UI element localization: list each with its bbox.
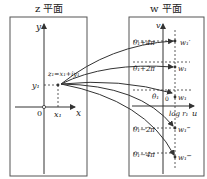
w-plane-title: w 平面 bbox=[150, 3, 182, 14]
z-y1-label: y₁ bbox=[31, 81, 40, 90]
w-v-axis-label: v bbox=[156, 21, 161, 30]
w-point bbox=[174, 66, 177, 69]
z1-point bbox=[57, 84, 60, 87]
level-label: θ₁ bbox=[152, 93, 159, 101]
z-plane-title: z 平面 bbox=[35, 3, 63, 14]
w-point-label: w₁′ bbox=[180, 39, 191, 47]
w-point bbox=[174, 127, 177, 130]
z-origin-marker bbox=[42, 105, 45, 108]
z-origin-label: 0 bbox=[37, 109, 42, 118]
w-point-label: w₁ bbox=[178, 94, 187, 102]
w-point bbox=[174, 40, 177, 43]
w-point-label: w₁⁗ bbox=[178, 154, 192, 162]
w-point-label: w₁‴ bbox=[178, 126, 191, 134]
z-x1-label: x₁ bbox=[54, 110, 62, 119]
z1-point-label: z₁=x₁+iy₁ bbox=[47, 70, 80, 78]
level-label: θ₁+4π bbox=[133, 39, 155, 47]
w-u-axis-label: u bbox=[192, 109, 197, 118]
w-logr-label: log r₁ bbox=[169, 110, 189, 118]
z-plane-frame bbox=[10, 17, 87, 176]
level-label: θ₁−4π bbox=[133, 151, 155, 159]
w-point-label: w₁ bbox=[178, 65, 187, 73]
w-point bbox=[174, 156, 177, 159]
level-label: θ₁−2π bbox=[133, 126, 155, 134]
z-x-axis-label: x bbox=[76, 108, 81, 118]
mapping-arrow bbox=[61, 84, 173, 126]
z-y-axis-label: y bbox=[35, 22, 42, 32]
w-origin-label: 0 bbox=[165, 95, 169, 102]
level-label: θ₁+2π bbox=[133, 65, 155, 73]
complex-log-mapping-diagram: z 平面 w 平面 y x 0 x₁ y₁ z₁=x₁+iy₁ v u 0 lo… bbox=[0, 0, 207, 179]
w-point bbox=[174, 96, 177, 99]
